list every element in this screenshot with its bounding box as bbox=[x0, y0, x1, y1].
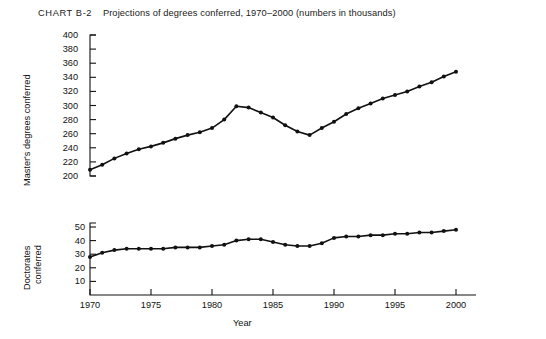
chart-canvas bbox=[0, 0, 546, 339]
masters-point bbox=[295, 130, 299, 134]
masters-point bbox=[88, 168, 92, 172]
masters-point bbox=[417, 84, 421, 88]
doctorates-point bbox=[442, 229, 446, 233]
masters-point bbox=[332, 120, 336, 124]
doctorates-point bbox=[198, 245, 202, 249]
masters-point bbox=[381, 96, 385, 100]
masters-point bbox=[247, 106, 251, 110]
masters-point bbox=[112, 156, 116, 160]
doctorates-point bbox=[332, 236, 336, 240]
doctorates-point bbox=[320, 241, 324, 245]
doctorates-point bbox=[283, 243, 287, 247]
doctorates-point bbox=[222, 243, 226, 247]
masters-point bbox=[369, 101, 373, 105]
masters-point bbox=[137, 147, 141, 151]
doctorates-point bbox=[186, 245, 190, 249]
masters-point bbox=[234, 104, 238, 108]
doctorates-point bbox=[356, 235, 360, 239]
doctorates-point bbox=[259, 237, 263, 241]
doctorates-point bbox=[210, 244, 214, 248]
masters-point bbox=[100, 163, 104, 167]
masters-point bbox=[308, 133, 312, 137]
doctorates-point bbox=[430, 230, 434, 234]
masters-point bbox=[344, 112, 348, 116]
doctorates-point bbox=[173, 245, 177, 249]
doctorates-point bbox=[405, 232, 409, 236]
doctorates-point bbox=[247, 237, 251, 241]
masters-point bbox=[442, 75, 446, 79]
doctorates-point bbox=[161, 247, 165, 251]
doctorates-point bbox=[417, 230, 421, 234]
masters-point bbox=[283, 123, 287, 127]
doctorates-point bbox=[393, 232, 397, 236]
masters-point bbox=[210, 126, 214, 130]
doctorates-point bbox=[149, 247, 153, 251]
masters-point bbox=[320, 126, 324, 130]
doctorates-point bbox=[112, 248, 116, 252]
doctorates-point bbox=[381, 233, 385, 237]
masters-point bbox=[198, 130, 202, 134]
masters-point bbox=[405, 89, 409, 93]
masters-point bbox=[259, 111, 263, 115]
masters-point bbox=[356, 106, 360, 110]
masters-point bbox=[173, 137, 177, 141]
doctorates-point bbox=[234, 239, 238, 243]
masters-line bbox=[90, 72, 456, 170]
doctorates-point bbox=[137, 247, 141, 251]
masters-point bbox=[393, 93, 397, 97]
masters-series bbox=[88, 70, 458, 172]
top-axis-group bbox=[90, 35, 96, 176]
doctorates-point bbox=[271, 240, 275, 244]
doctorates-point bbox=[295, 244, 299, 248]
doctorates-series bbox=[88, 228, 458, 259]
doctorates-point bbox=[308, 244, 312, 248]
masters-point bbox=[149, 144, 153, 148]
doctorates-point bbox=[344, 235, 348, 239]
masters-point bbox=[222, 118, 226, 122]
doctorates-point bbox=[125, 247, 129, 251]
doctorates-point bbox=[88, 255, 92, 259]
masters-point bbox=[271, 115, 275, 119]
doctorates-point bbox=[369, 233, 373, 237]
masters-point bbox=[186, 133, 190, 137]
doctorates-point bbox=[454, 228, 458, 232]
masters-point bbox=[454, 70, 458, 74]
masters-point bbox=[125, 151, 129, 155]
doctorates-point bbox=[100, 251, 104, 255]
chart-figure: CHART B-2 Projections of degrees conferr… bbox=[0, 0, 546, 339]
masters-point bbox=[161, 141, 165, 145]
masters-point bbox=[430, 80, 434, 84]
